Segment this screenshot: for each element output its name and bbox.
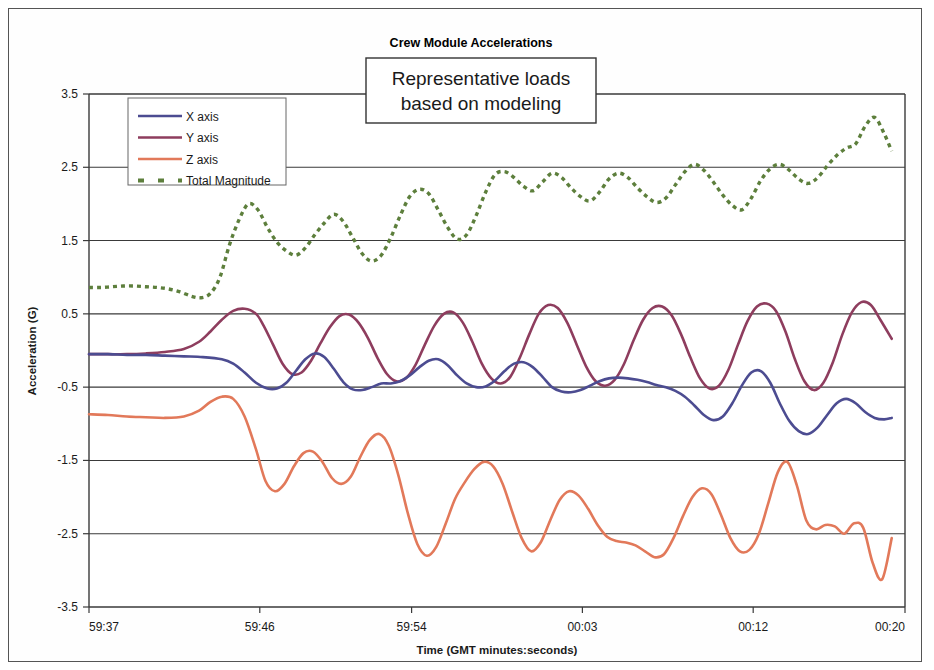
y-tick-label: 1.5 bbox=[61, 234, 78, 248]
screenshot-page: 3.52.51.50.5-0.5-1.5-2.5-3.5 59:3759:465… bbox=[0, 0, 934, 670]
y-tick-label: -1.5 bbox=[57, 453, 78, 467]
annotation-callout: Representative loads based on modeling bbox=[366, 58, 596, 123]
x-tick-label: 00:20 bbox=[875, 620, 905, 634]
y-tick-label: -2.5 bbox=[57, 527, 78, 541]
annotation-line-2: based on modeling bbox=[401, 93, 562, 114]
y-axis-title: Acceleration (G) bbox=[26, 306, 38, 395]
chart-legend[interactable]: X axisY axisZ axisTotal Magnitude bbox=[128, 98, 286, 188]
y-tick-label: 2.5 bbox=[61, 160, 78, 174]
legend-label-z-axis[interactable]: Z axis bbox=[186, 153, 218, 167]
x-tick-label: 00:12 bbox=[738, 620, 768, 634]
legend-label-total-magnitude[interactable]: Total Magnitude bbox=[186, 174, 271, 188]
y-axis-ticks bbox=[83, 94, 89, 607]
x-tick-label: 59:54 bbox=[397, 620, 427, 634]
legend-label-x-axis[interactable]: X axis bbox=[186, 110, 219, 124]
y-tick-label: 0.5 bbox=[61, 307, 78, 321]
annotation-line-1: Representative loads bbox=[392, 68, 571, 89]
x-axis-ticks bbox=[89, 607, 905, 613]
x-tick-label: 59:46 bbox=[245, 620, 275, 634]
y-tick-label: -0.5 bbox=[57, 380, 78, 394]
x-axis-tick-labels: 59:3759:4659:5400:0300:1200:20 bbox=[89, 620, 905, 634]
y-tick-label: 3.5 bbox=[61, 87, 78, 101]
chart-title: Crew Module Accelerations bbox=[390, 36, 553, 50]
y-tick-label: -3.5 bbox=[57, 600, 78, 614]
legend-label-y-axis[interactable]: Y axis bbox=[186, 131, 218, 145]
y-axis-tick-labels: 3.52.51.50.5-0.5-1.5-2.5-3.5 bbox=[57, 87, 78, 614]
x-axis-title: Time (GMT minutes:seconds) bbox=[417, 644, 578, 656]
x-tick-label: 00:03 bbox=[567, 620, 597, 634]
acceleration-chart: 3.52.51.50.5-0.5-1.5-2.5-3.5 59:3759:465… bbox=[0, 0, 934, 670]
x-tick-label: 59:37 bbox=[89, 620, 119, 634]
